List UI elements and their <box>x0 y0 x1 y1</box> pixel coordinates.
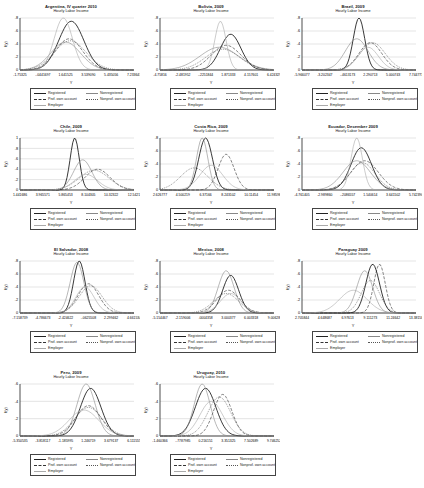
svg-text:.6: .6 <box>297 29 300 33</box>
svg-text:6.97613: 6.97613 <box>341 316 353 320</box>
svg-text:6.37166: 6.37166 <box>199 193 211 197</box>
svg-text:.2: .2 <box>155 298 158 302</box>
svg-text:-.0441697: -.0441697 <box>35 73 50 77</box>
svg-text:2.626777: 2.626777 <box>153 193 167 197</box>
svg-text:.6: .6 <box>297 149 300 153</box>
chart-legend: RegisteredNonregisteredProf. own account… <box>312 88 418 110</box>
svg-text:.6: .6 <box>15 29 18 33</box>
legend-swatch <box>86 336 98 337</box>
svg-text:-2.159006: -2.159006 <box>175 316 190 320</box>
chart-panel: El Salvador, 2008Hourly Labor Income0.2.… <box>2 245 140 360</box>
svg-text:12.5421: 12.5421 <box>128 193 140 197</box>
svg-text:.8: .8 <box>297 259 300 263</box>
legend-entry: Nonprof. own account <box>86 217 135 221</box>
svg-text:.0004358: .0004358 <box>199 316 213 320</box>
legend-swatch <box>316 105 328 106</box>
legend-swatch <box>174 225 186 226</box>
legend-swatch <box>368 342 380 343</box>
legend-swatch <box>34 342 46 343</box>
chart-legend: RegisteredNonregisteredProf. own account… <box>30 208 136 230</box>
density-curve-nonprof-own-account <box>160 168 274 190</box>
svg-text:10.11454: 10.11454 <box>244 193 258 197</box>
density-plot: 0.2.4.6.8f(y)-4.761405-2.989860-.2086557… <box>284 134 422 200</box>
svg-text:4.500219: 4.500219 <box>176 193 190 197</box>
legend-swatch <box>34 213 46 214</box>
legend-entry: Prof. own account <box>174 97 217 101</box>
density-plot: 0.2.4.6.8f(y)-5.966077-3.202347-.4613173… <box>284 14 422 80</box>
svg-text:8.243102: 8.243102 <box>221 193 235 197</box>
chart-panel: Costa Rica, 2009Hourly Labor Income0.2.4… <box>142 122 280 237</box>
svg-text:0.216151: 0.216151 <box>199 439 213 443</box>
svg-text:f(y): f(y) <box>144 41 148 47</box>
legend-entry: Prof. own account <box>34 217 77 221</box>
density-curve-employer <box>160 21 274 70</box>
svg-text:f(y): f(y) <box>144 407 148 413</box>
svg-text:3.000377: 3.000377 <box>221 316 235 320</box>
svg-text:-3.818117: -3.818117 <box>35 439 50 443</box>
legend-swatch <box>368 213 380 214</box>
legend-swatch <box>34 471 46 472</box>
chart-panel: Peru, 2009Hourly Labor Income0.2.4.6f(y)… <box>2 368 140 483</box>
svg-text:.2: .2 <box>155 175 158 179</box>
density-plot: 0.2.4.6.8f(y)2.6267774.5002196.371668.24… <box>142 134 280 200</box>
svg-text:.4: .4 <box>15 400 18 404</box>
legend-swatch <box>174 342 186 343</box>
legend-swatch <box>174 105 186 106</box>
legend-swatch <box>226 99 238 100</box>
legend-entry: Employer <box>316 223 345 227</box>
density-curve-nonregistered <box>20 262 134 313</box>
density-curve-employer <box>20 174 134 190</box>
svg-text:0: 0 <box>156 434 158 438</box>
legend-entry: Nonprof. own account <box>86 97 135 101</box>
density-curve-registered <box>20 138 134 190</box>
legend-entry: Employer <box>174 103 203 107</box>
density-curve-nonregistered <box>160 271 274 313</box>
svg-text:0: 0 <box>156 188 158 192</box>
legend-swatch <box>316 225 328 226</box>
legend-entry: Employer <box>34 469 63 473</box>
chart-legend: RegisteredNonregisteredProf. own account… <box>30 331 136 353</box>
svg-text:0: 0 <box>16 188 18 192</box>
density-curve-nonregistered <box>20 160 134 190</box>
svg-text:.8: .8 <box>297 136 300 140</box>
legend-entry: Prof. own account <box>34 97 77 101</box>
density-plot: 0.2.4.6.8f(y)2.7058444.6486876.976139.11… <box>284 257 422 323</box>
density-curve-registered <box>302 264 416 313</box>
chart-legend: RegisteredNonregisteredProf. own account… <box>312 208 418 230</box>
density-curve-prof-own-account <box>302 161 416 190</box>
legend-entry: Nonregistered <box>226 457 263 461</box>
svg-text:f(y): f(y) <box>286 161 290 167</box>
svg-text:4.661534: 4.661534 <box>127 316 140 320</box>
svg-text:.4: .4 <box>15 42 18 46</box>
legend-entry: Registered <box>174 91 205 95</box>
legend-swatch <box>34 99 46 100</box>
legend-entry: Nonprof. own account <box>368 97 417 101</box>
svg-text:-.2251844: -.2251844 <box>198 73 213 77</box>
svg-text:.6: .6 <box>155 29 158 33</box>
svg-text:6.111555: 6.111555 <box>127 439 140 443</box>
legend-entry: Nonregistered <box>86 211 123 215</box>
density-plot: 0.2.4.6.8f(y)-7.158739-4.786673-2.424622… <box>2 257 140 323</box>
legend-swatch <box>368 336 380 337</box>
legend-entry: Nonregistered <box>226 91 263 95</box>
density-plot: 0.2.4.6f(y)-1.460366-.77879850.2161513.3… <box>142 380 280 446</box>
legend-swatch <box>86 99 98 100</box>
svg-text:5.742390: 5.742390 <box>409 193 422 197</box>
legend-swatch <box>226 342 238 343</box>
svg-text:.2: .2 <box>155 417 158 421</box>
legend-entry: Prof. own account <box>174 463 217 467</box>
density-curve-nonprof-own-account <box>160 294 274 313</box>
svg-text:.8: .8 <box>297 16 300 20</box>
svg-text:3.641502: 3.641502 <box>386 193 400 197</box>
legend-entry: Nonregistered <box>368 334 405 338</box>
legend-entry: Employer <box>316 103 345 107</box>
svg-text:f(y): f(y) <box>4 41 8 47</box>
legend-entry: Employer <box>174 223 203 227</box>
legend-swatch <box>316 342 328 343</box>
legend-swatch <box>316 336 328 337</box>
density-curve-registered <box>302 148 416 190</box>
legend-swatch <box>174 99 186 100</box>
svg-text:.6: .6 <box>155 382 158 386</box>
legend-entry: Registered <box>34 211 65 215</box>
legend-entry: Prof. own account <box>174 217 217 221</box>
